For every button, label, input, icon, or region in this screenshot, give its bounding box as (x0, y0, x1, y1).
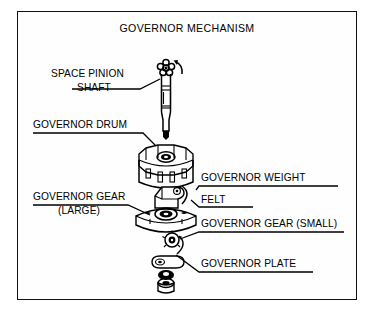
space-pinion-shaft-drawing (157, 59, 182, 140)
label-governor-weight: GOVERNOR WEIGHT (201, 172, 306, 183)
label-governor-drum: GOVERNOR DRUM (33, 119, 127, 130)
label-space-pinion-shaft-line1: SPACE PINION (51, 68, 124, 79)
nut-washer-stack-drawing (158, 270, 174, 293)
governor-gear-large-drawing (136, 208, 196, 232)
label-governor-gear-large-line2: (LARGE) (58, 205, 100, 216)
label-governor-plate: GOVERNOR PLATE (201, 258, 296, 269)
label-governor-gear-small: GOVERNOR GEAR (SMALL) (201, 218, 337, 229)
leader-governor-gear-small (180, 232, 344, 239)
label-space-pinion-shaft-line2: SHAFT (77, 82, 111, 93)
label-governor-gear-large-line1: GOVERNOR GEAR (33, 191, 125, 202)
pinion-gear-head (157, 59, 174, 75)
governor-drum-drawing (139, 145, 193, 188)
assembly-drawing (0, 0, 374, 313)
governor-mechanism-figure: GOVERNOR MECHANISM (0, 0, 374, 313)
leader-governor-weight (196, 186, 338, 190)
label-felt: FELT (201, 194, 226, 205)
leader-governor-drum (33, 133, 156, 146)
governor-gear-small-drawing (163, 231, 184, 255)
governor-weight-drawing (155, 186, 187, 208)
